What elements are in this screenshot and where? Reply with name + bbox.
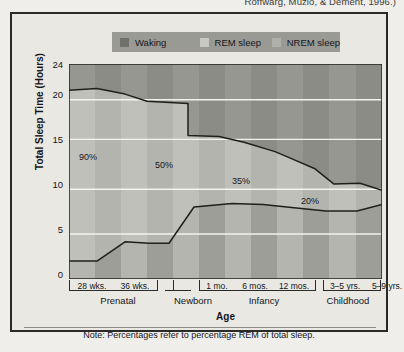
annotation-20pct: 20% <box>301 196 319 206</box>
group-newborn: Newborn <box>157 295 229 306</box>
age-group-strip: Prenatal Newborn Infancy Childhood <box>69 294 382 310</box>
group-infancy: Infancy <box>224 295 304 306</box>
y-tick-15: 15 <box>37 134 63 145</box>
annotation-35pct: 35% <box>232 176 250 186</box>
legend-item-waking: Waking <box>120 37 200 48</box>
x-axis-tick-strip: 28 wks. 36 wks. 1 mo. 6 mos. 12 mos. 3–5… <box>69 280 382 294</box>
figure-frame: Waking REM sleep NREM sleep Total Sleep … <box>10 12 388 332</box>
legend-label-rem: REM sleep <box>215 37 261 48</box>
y-tick-20: 20 <box>37 89 63 100</box>
chart-plot-area: 90% 50% 35% 20% <box>69 64 382 279</box>
source-citation: Roffwarg, Muzio, & Dement, 1996.) <box>0 0 396 7</box>
legend-label-nrem: NREM sleep <box>287 37 340 48</box>
figure-root: Roffwarg, Muzio, & Dement, 1996.) Waking… <box>0 0 404 352</box>
y-tick-0: 0 <box>37 269 63 280</box>
figure-note: Note: Percentages refer to percentage RE… <box>12 330 386 340</box>
group-childhood: Childhood <box>309 295 387 306</box>
annotation-50pct: 50% <box>155 160 173 170</box>
note-divider <box>24 327 376 328</box>
rem-swatch-icon <box>200 38 209 47</box>
chart-svg <box>69 64 382 279</box>
chart-legend: Waking REM sleep NREM sleep <box>112 32 340 52</box>
y-tick-5: 5 <box>37 224 63 235</box>
group-prenatal: Prenatal <box>79 295 157 306</box>
legend-label-waking: Waking <box>135 37 166 48</box>
y-tick-10: 10 <box>37 179 63 190</box>
waking-swatch-icon <box>120 38 129 47</box>
annotation-90pct: 90% <box>79 152 97 162</box>
y-tick-24: 24 <box>37 59 63 70</box>
nrem-swatch-icon <box>272 38 281 47</box>
legend-item-rem: REM sleep <box>200 37 272 48</box>
x-axis-title: Age <box>69 311 382 322</box>
legend-item-nrem: NREM sleep <box>272 37 340 48</box>
